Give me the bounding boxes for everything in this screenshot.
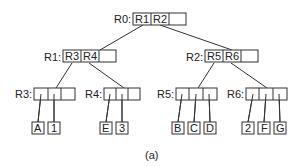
r-tree-diagram: R0: R1 R2 R1: R3 R4 R2: R5 R6 R3: R4:: [0, 0, 304, 166]
node-label: R0:: [114, 13, 131, 25]
node-r0: R0: R1 R2: [114, 13, 186, 25]
node-r1: R1: R3 R4: [44, 50, 116, 63]
leaf-a: A: [34, 122, 42, 134]
node-r6: R6:: [227, 88, 287, 100]
node-label: R2:: [186, 51, 203, 63]
leaves: A 1 E 3 B C D 2 F G: [32, 122, 286, 134]
node-r4: R4:: [85, 88, 140, 100]
entry: R4: [83, 50, 97, 62]
edges: [38, 25, 280, 122]
entry: R2: [153, 13, 167, 25]
node-label: R6:: [227, 88, 244, 100]
node-label: R3:: [15, 88, 32, 100]
leaf-g: G: [276, 122, 285, 134]
leaf-b: B: [174, 122, 181, 134]
node-r3: R3:: [15, 88, 75, 100]
leaf-2: 2: [245, 122, 251, 134]
leaf-c: C: [190, 122, 198, 134]
node-label: R4:: [85, 88, 102, 100]
leaf-d: D: [206, 122, 214, 134]
leaf-e: E: [102, 122, 109, 134]
entry: R3: [65, 50, 79, 62]
leaf-f: F: [261, 122, 268, 134]
entry: R5: [207, 50, 221, 62]
node-r5: R5:: [157, 88, 217, 100]
leaf-3: 3: [119, 122, 125, 134]
node-r2: R2: R5 R6: [186, 50, 258, 63]
node-label: R1:: [44, 51, 61, 63]
node-label: R5:: [157, 88, 174, 100]
entry: R1: [135, 13, 149, 25]
leaf-1: 1: [51, 122, 57, 134]
entry: R6: [225, 50, 239, 62]
figure-caption: (a): [145, 149, 158, 161]
